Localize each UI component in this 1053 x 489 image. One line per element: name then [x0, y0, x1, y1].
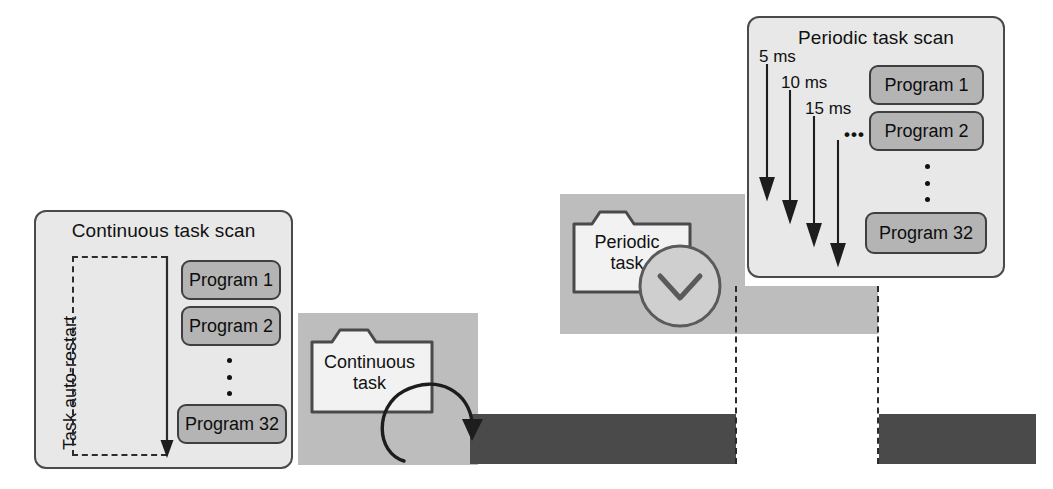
- program-chip[interactable]: Program 1: [869, 65, 984, 105]
- execution-bar-right: [879, 414, 1036, 464]
- dashed-guide-1: [735, 286, 737, 464]
- program-chip[interactable]: Program 1: [181, 260, 281, 300]
- periodic-task-scan-panel: Periodic task scan 5 ms 10 ms 15 ms ••• …: [747, 16, 1005, 278]
- auto-restart-path: [72, 256, 167, 456]
- program-chip[interactable]: Program 32: [177, 404, 287, 444]
- loop-arrow-icon: [370, 345, 500, 470]
- periodic-task-block-continuation: [737, 286, 878, 334]
- continuous-task-scan-panel: Continuous task scan Task auto-restart P…: [34, 210, 293, 469]
- program-chip[interactable]: Program 2: [869, 111, 984, 151]
- program-chip[interactable]: Program 32: [865, 212, 987, 254]
- program-list-ellipsis: [226, 358, 232, 396]
- program-list-ellipsis: [924, 164, 930, 202]
- program-chip[interactable]: Program 2: [181, 306, 281, 346]
- execution-bar-left: [470, 414, 736, 464]
- diagram-canvas: Continuous task scan Task auto-restart P…: [0, 0, 1053, 489]
- clock-icon: [637, 243, 723, 329]
- continuous-panel-title: Continuous task scan: [36, 220, 291, 242]
- dashed-guide-2: [877, 286, 879, 464]
